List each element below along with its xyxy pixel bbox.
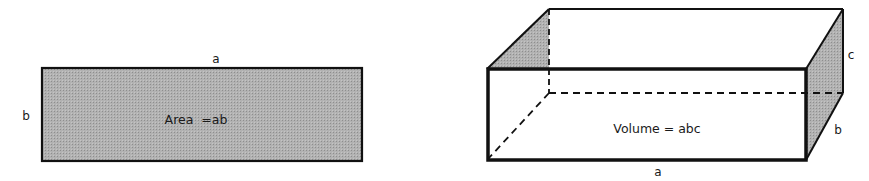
box-depth-label: b [834, 123, 842, 137]
geometry-diagram: a b Area =ab Volume = abc a b c [0, 0, 869, 181]
rectangle-side-label: b [22, 109, 30, 123]
volume-formula: Volume = abc [613, 121, 701, 136]
volume-box: Volume = abc a b c [487, 9, 854, 179]
front-face [488, 69, 806, 160]
box-bottom-label: a [654, 165, 661, 179]
area-rectangle: a b Area =ab [22, 52, 362, 161]
area-formula: Area =ab [165, 112, 228, 127]
hidden-depth-edge [488, 93, 549, 159]
rectangle-top-label: a [212, 52, 219, 66]
box-height-label: c [848, 48, 855, 62]
right-side-face [806, 9, 843, 160]
